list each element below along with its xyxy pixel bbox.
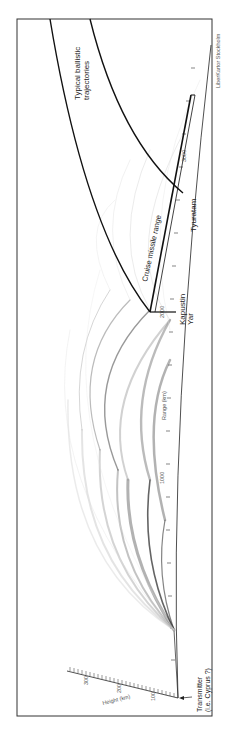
propagation-rays	[65, 80, 200, 630]
cruise-missile-label: Cruise missile range	[140, 214, 163, 282]
ballistic-label-line2: trajectories	[82, 61, 91, 100]
transmitter-line	[174, 630, 178, 698]
map-credit: LiberKartor Stockholm	[215, 33, 221, 88]
range-tick-1000: 1000	[159, 472, 165, 484]
transmitter-arrow-icon	[179, 696, 192, 700]
height-tick-300: 300	[83, 676, 89, 685]
ballistic-label-line1: Typical ballistic	[73, 47, 82, 100]
height-tick-200: 200	[116, 684, 122, 693]
ballistic-trajectory-tyuratam	[90, 19, 183, 193]
tyuratam-label: Tyuratam	[189, 198, 198, 232]
kapustin-label-line2: Yar	[186, 313, 195, 325]
transmitter-label-line2: (i.e. Cyprus ?)	[204, 668, 212, 712]
height-tick-100: 100	[150, 692, 156, 701]
height-axis-title: Height (km)	[102, 693, 131, 706]
ballistic-trajectory-kapustin	[50, 19, 150, 312]
over-the-horizon-radar-diagram: 1000 2000 3000 Range (km) 100 200 300	[0, 0, 231, 730]
transmitter-label-line1: Transmitter	[196, 676, 203, 712]
range-axis-title: Range (km)	[161, 391, 167, 420]
